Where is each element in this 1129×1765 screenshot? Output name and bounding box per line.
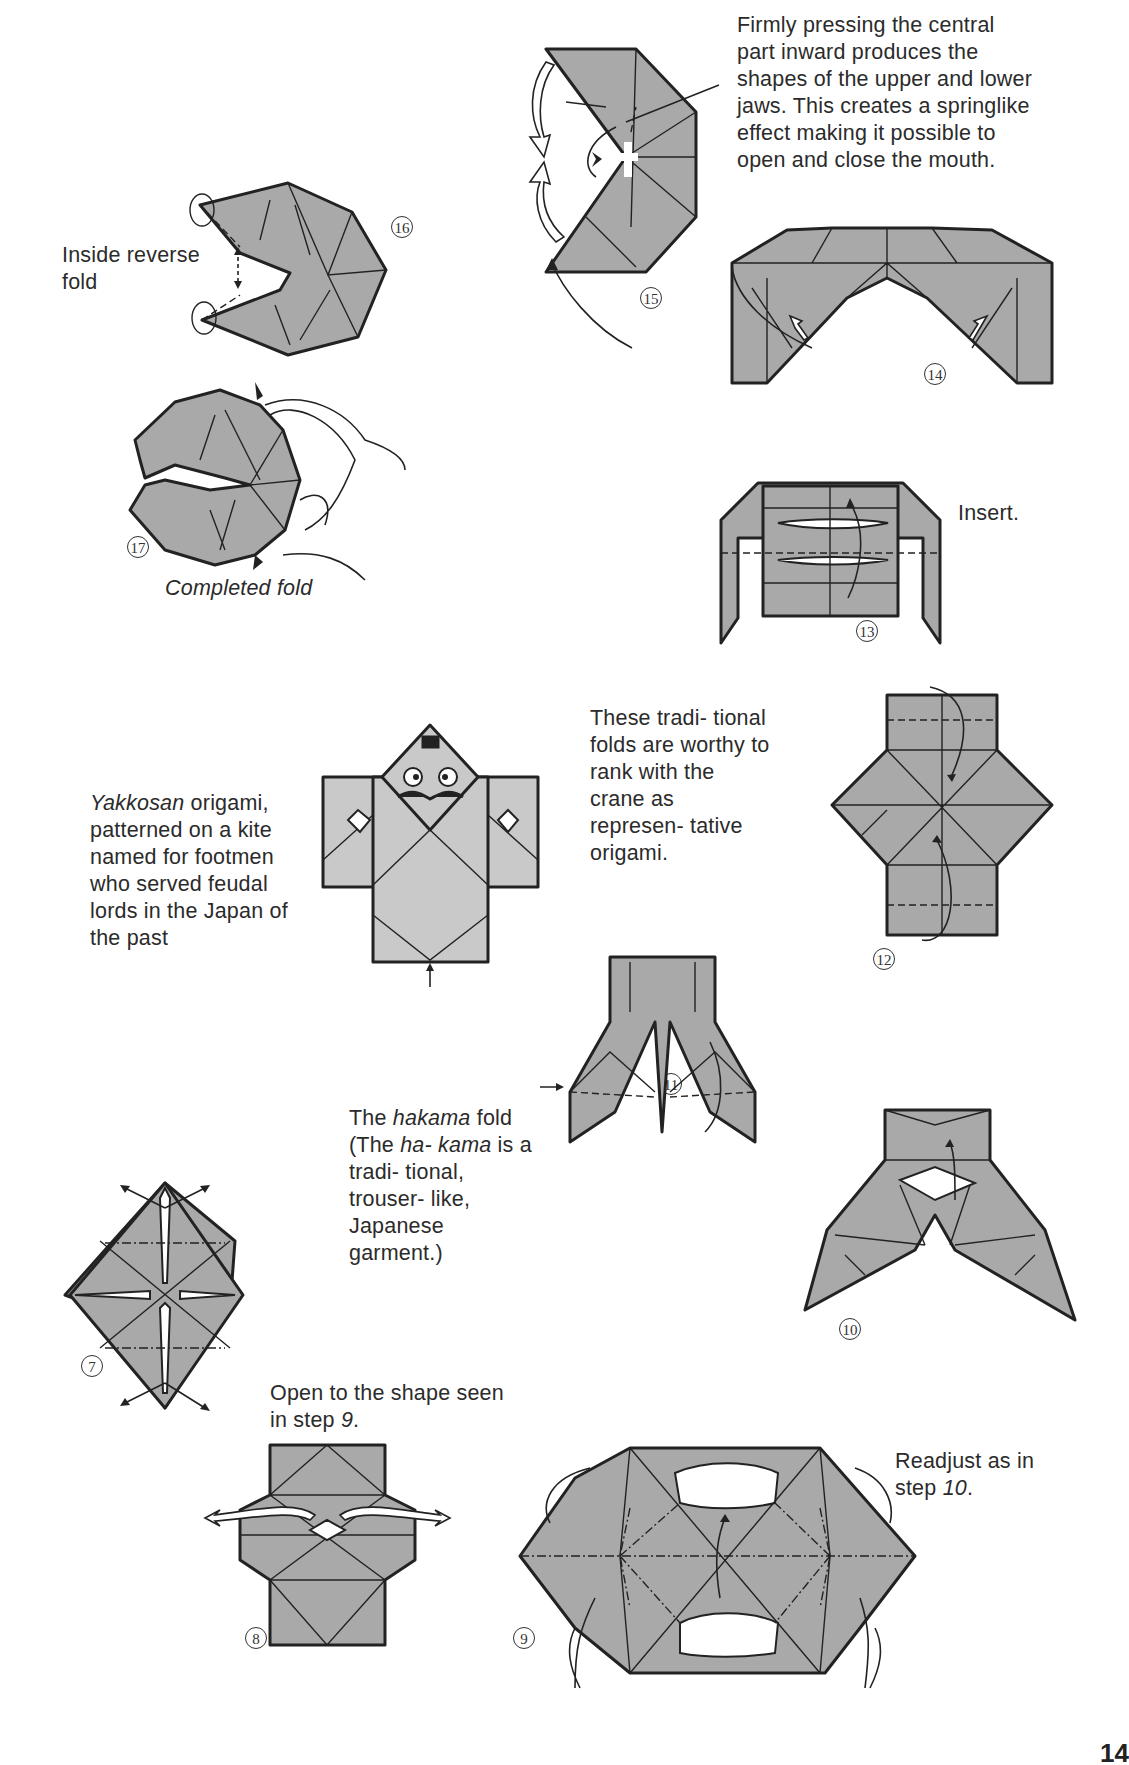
caption-traditional-folds: These tradi- tional folds are worthy to …	[590, 705, 770, 867]
diagram-step-16	[180, 175, 400, 355]
caption-part: .	[353, 1408, 359, 1432]
diagram-step-17	[105, 380, 405, 580]
caption-part: Open to the shape seen in step	[270, 1381, 504, 1432]
diagram-step-7	[65, 1183, 255, 1418]
caption-open-to-shape: Open to the shape seen in step 9.	[270, 1380, 510, 1434]
diagram-step-9	[520, 1448, 920, 1688]
diagram-step-11	[570, 952, 755, 1147]
diagram-step-13	[718, 478, 943, 648]
diagram-step-15	[536, 47, 716, 277]
caption-firmly-pressing: Firmly pressing the central part inward …	[737, 12, 1037, 174]
caption-part: .	[967, 1476, 973, 1500]
caption-step-ref: 9	[341, 1408, 353, 1432]
caption-hakama: The hakama fold (The ha- kama is a tradi…	[349, 1105, 539, 1267]
caption-yakkosan: Yakkosan origami, patterned on a kite na…	[90, 790, 315, 952]
diagram-step-12	[832, 690, 1057, 945]
step-number-15: 15	[640, 287, 662, 309]
caption-yakkosan-term: Yakkosan	[90, 791, 184, 815]
caption-insert: Insert.	[958, 500, 1019, 527]
step-number-12: 12	[873, 948, 895, 970]
caption-part: The	[349, 1106, 393, 1130]
diagram-step-14	[712, 218, 1052, 388]
diagram-step-8	[215, 1440, 500, 1655]
diagram-step-10	[805, 1105, 1070, 1315]
caption-term: ha- kama	[400, 1133, 491, 1157]
caption-term: hakama	[393, 1106, 471, 1130]
caption-step-ref: 10	[943, 1476, 967, 1500]
step-number-10: 10	[839, 1318, 861, 1340]
diagram-yakkosan	[318, 725, 543, 975]
page-number: 14	[1100, 1738, 1129, 1765]
